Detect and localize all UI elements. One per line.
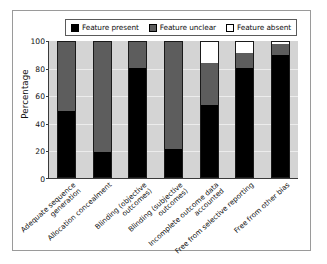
white-square-icon [226, 24, 234, 32]
gray-square-icon [149, 24, 157, 32]
bar-7 [271, 41, 290, 178]
bar-1-segment-present [57, 111, 76, 178]
bar-4-segment-present [164, 149, 183, 178]
bar-7-segment-present [271, 55, 290, 178]
legend-label-feature-unclear: Feature unclear [160, 23, 216, 32]
bar-4 [164, 41, 183, 178]
y-axis-tick-labels: 020406080100 [21, 41, 45, 179]
y-tick-label-0: 0 [21, 175, 45, 184]
bar-5-segment-unclear [200, 63, 219, 105]
legend-item-feature-absent: Feature absent [226, 23, 291, 32]
bar-2 [93, 41, 112, 178]
y-tick-label-60: 60 [21, 92, 45, 101]
bar-3-segment-unclear [128, 41, 147, 68]
bar-5-segment-absent [200, 41, 219, 63]
bar-2-segment-present [93, 152, 112, 178]
bar-6-segment-unclear [235, 53, 254, 68]
y-tick-mark-0 [46, 178, 49, 179]
bar-group [49, 41, 298, 178]
plot-area [48, 41, 298, 179]
y-tick-label-80: 80 [21, 64, 45, 73]
bar-5-segment-present [200, 105, 219, 178]
bar-6 [235, 41, 254, 178]
chart-legend: Feature present Feature unclear Feature … [65, 19, 297, 36]
bar-3-segment-present [128, 68, 147, 178]
bar-2-segment-unclear [93, 41, 112, 152]
legend-item-feature-unclear: Feature unclear [149, 23, 216, 32]
legend-label-feature-present: Feature present [82, 23, 139, 32]
bar-6-segment-absent [235, 41, 254, 53]
y-tick-label-100: 100 [21, 37, 45, 46]
bar-4-segment-unclear [164, 41, 183, 149]
bar-7-segment-unclear [271, 44, 290, 55]
bar-5 [200, 41, 219, 178]
bar-6-segment-present [235, 68, 254, 178]
y-tick-label-20: 20 [21, 147, 45, 156]
x-axis-category-labels: Adequate sequence generationAllocation c… [48, 181, 298, 249]
legend-label-feature-absent: Feature absent [237, 23, 291, 32]
bar-1 [57, 41, 76, 178]
bar-3 [128, 41, 147, 178]
legend-item-feature-present: Feature present [71, 23, 139, 32]
chart-figure: Feature present Feature unclear Feature … [12, 10, 311, 251]
bar-1-segment-unclear [57, 41, 76, 111]
black-square-icon [71, 24, 79, 32]
y-tick-label-40: 40 [21, 119, 45, 128]
